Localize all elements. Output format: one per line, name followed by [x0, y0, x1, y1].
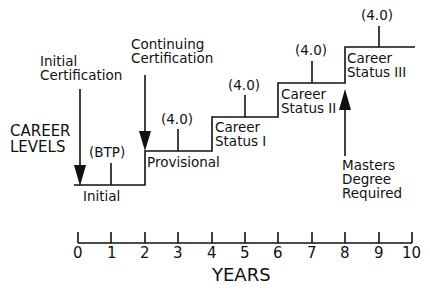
continuing-certification-label: Continuing Certification: [131, 37, 213, 65]
level-initial: Initial: [83, 189, 120, 203]
x-tick-label: 7: [307, 246, 317, 262]
level-label-line: Status III: [347, 65, 406, 79]
marker-btp: (BTP): [89, 145, 125, 159]
initial-certification-label: Initial Certification: [40, 54, 122, 82]
x-tick-label: 1: [107, 246, 117, 262]
marker-cs2: (4.0): [295, 43, 327, 57]
arrow-down-icon: [74, 165, 86, 186]
annotation-line: Certification: [131, 51, 213, 65]
x-tick-label: 4: [207, 246, 217, 262]
annotation-line: Continuing: [131, 37, 213, 51]
level-label-line: Career: [281, 87, 336, 101]
level-label-line: Status II: [281, 101, 336, 115]
x-axis-ticks: [78, 232, 412, 243]
y-axis-title: CAREER LEVELS: [10, 124, 71, 156]
x-tick-label: 9: [374, 246, 384, 262]
marker-cs3: (4.0): [361, 8, 393, 22]
x-tick-label: 8: [340, 246, 350, 262]
level-provisional: Provisional: [147, 155, 220, 169]
marker-cs1: (4.0): [228, 78, 260, 92]
annotation-line: Degree: [342, 172, 402, 186]
annotation-line: Required: [342, 186, 402, 200]
annotation-line: Masters: [342, 158, 402, 172]
arrow-up-icon: [339, 89, 351, 110]
x-tick-label: 5: [240, 246, 250, 262]
y-axis-title-line: LEVELS: [10, 140, 71, 156]
arrow-down-icon: [139, 131, 151, 151]
level-career-status-1: Career Status I: [215, 120, 266, 148]
x-tick-label: 3: [173, 246, 183, 262]
level-label-line: Status I: [215, 134, 266, 148]
masters-degree-label: Masters Degree Required: [342, 158, 402, 201]
marker-provisional: (4.0): [161, 112, 193, 126]
x-tick-label: 0: [73, 246, 83, 262]
x-tick-label: 6: [273, 246, 283, 262]
annotation-line: Initial: [40, 54, 122, 68]
x-tick-label: 2: [140, 246, 150, 262]
x-tick-label: 10: [402, 246, 421, 262]
annotation-line: Certification: [40, 68, 122, 82]
level-label-line: Career: [215, 120, 266, 134]
level-career-status-2: Career Status II: [281, 87, 336, 115]
x-axis-title: YEARS: [212, 266, 271, 285]
level-career-status-3: Career Status III: [347, 51, 406, 79]
level-label-line: Career: [347, 51, 406, 65]
